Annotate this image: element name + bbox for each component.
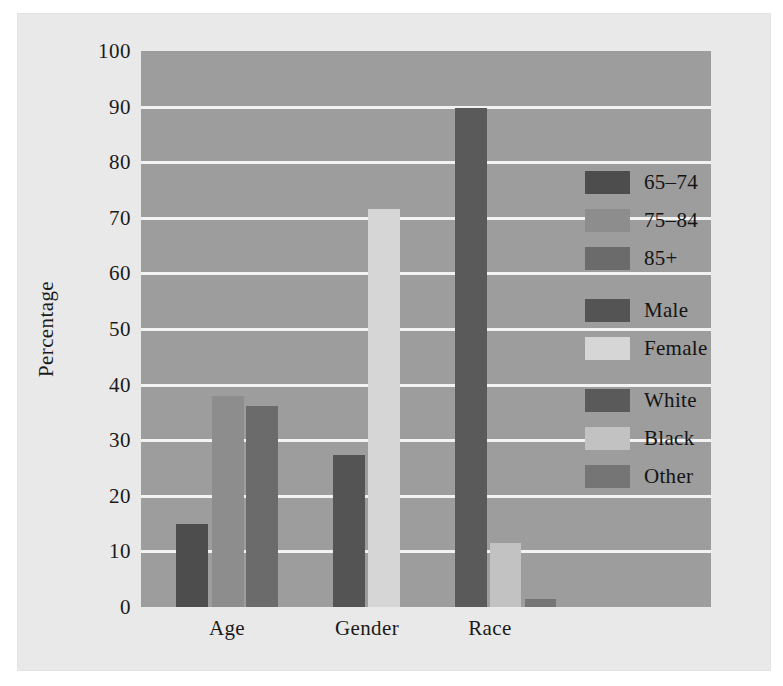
y-tick-label: 70 [109, 205, 131, 230]
chart-figure: Percentage 0102030405060708090100 65–747… [18, 14, 770, 670]
y-tick-label: 30 [109, 428, 131, 453]
y-tick-label: 90 [109, 94, 131, 119]
legend-swatch [585, 337, 630, 360]
legend-item-85+[interactable]: 85+ [585, 243, 678, 273]
legend-item-65-74[interactable]: 65–74 [585, 167, 698, 197]
legend-label: Female [644, 336, 708, 361]
legend-item-male[interactable]: Male [585, 295, 688, 325]
legend-item-other[interactable]: Other [585, 461, 693, 491]
legend-swatch [585, 465, 630, 488]
bar-gender-male [333, 455, 365, 607]
legend-swatch [585, 247, 630, 270]
legend-swatch [585, 427, 630, 450]
y-tick-label: 10 [109, 539, 131, 564]
y-tick-label: 50 [109, 317, 131, 342]
legend-label: 85+ [644, 246, 678, 271]
legend-label: 75–84 [644, 208, 698, 233]
y-tick-label: 60 [109, 261, 131, 286]
legend-label: Black [644, 426, 694, 451]
plot-area: 65–7475–8485+MaleFemaleWhiteBlackOther [141, 51, 711, 607]
gridline [141, 328, 711, 331]
bar-race-white [455, 108, 487, 607]
legend-item-white[interactable]: White [585, 385, 697, 415]
legend-item-black[interactable]: Black [585, 423, 694, 453]
legend-item-75-84[interactable]: 75–84 [585, 205, 698, 235]
legend-swatch [585, 209, 630, 232]
y-axis-ticks: 0102030405060708090100 [18, 14, 141, 670]
x-tick-label-age: Age [209, 616, 245, 641]
legend-label: Other [644, 464, 693, 489]
bar-race-other [525, 599, 556, 607]
legend-swatch [585, 171, 630, 194]
legend-swatch [585, 389, 630, 412]
bar-race-black [490, 543, 521, 607]
bar-age-75-84 [212, 396, 244, 607]
x-tick-label-race: Race [468, 616, 512, 641]
y-tick-label: 40 [109, 372, 131, 397]
legend-label: Male [644, 298, 688, 323]
bar-gender-female [368, 209, 400, 607]
y-tick-label: 100 [98, 39, 131, 64]
bar-age-65-74 [176, 524, 208, 607]
gridline [141, 161, 711, 164]
x-tick-label-gender: Gender [335, 616, 399, 641]
bar-age-85- [246, 406, 278, 607]
y-tick-label: 20 [109, 483, 131, 508]
legend-label: 65–74 [644, 170, 698, 195]
legend-swatch [585, 299, 630, 322]
legend-item-female[interactable]: Female [585, 333, 708, 363]
y-tick-label: 0 [120, 595, 131, 620]
legend-label: White [644, 388, 697, 413]
gridline [141, 106, 711, 109]
y-tick-label: 80 [109, 150, 131, 175]
